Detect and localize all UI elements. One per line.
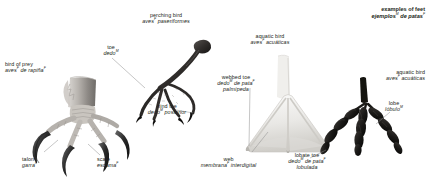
specimen-es: avesF paseriformes [116, 18, 216, 24]
callout-lobe: lobe lóbuloM [370, 100, 418, 112]
specimen-es: avesF acuáticas [230, 39, 310, 45]
callout-web: web membranaF interdigital [186, 156, 271, 168]
callout-hind-toe: hind toe dedoM posterior [128, 103, 206, 115]
callout-es: membranaF interdigital [186, 162, 271, 168]
specimen-label-aquatic-bird-webbed: aquatic bird avesF acuáticas [230, 33, 310, 45]
specimen-label-bird-of-prey: bird of prey avesF de rapiñaF [5, 61, 46, 73]
illustration-plate: examples of feet ejemplosM de patasF bir… [0, 0, 429, 187]
leader-toe [112, 58, 145, 88]
leader-webbed-toe [249, 88, 250, 146]
callout-talon: talon garraF [22, 156, 37, 168]
specimen-es: avesF acuáticas [386, 75, 425, 81]
callout-es: dedoM [88, 50, 134, 56]
webbed-foot-art [246, 55, 329, 153]
callout-es-line3: palmípeda [196, 86, 276, 92]
callout-lobate-toe: lobate toe dedoM de pataF lobulada [268, 152, 346, 171]
leader-talon [44, 140, 58, 152]
callout-es: dedoM posterior [128, 109, 206, 115]
callout-es: garraF [22, 162, 37, 168]
leader-lines [44, 58, 390, 158]
callout-es: escamaF [97, 162, 119, 168]
callout-webbed-toe: webbed toe dedoM de pataF palmípeda [196, 74, 276, 93]
plate-title-es: ejemplosM de patasF [372, 13, 425, 20]
lobate-foot-art [318, 77, 404, 156]
callout-scale: scale escamaF [97, 156, 119, 168]
callout-es-line3: lobulada [268, 164, 346, 170]
specimen-es: avesF de rapiñaF [5, 67, 46, 73]
specimen-label-aquatic-bird-lobate: aquatic bird avesF acuáticas [386, 69, 425, 81]
plate-title: examples of feet ejemplosM de patasF [372, 6, 425, 19]
specimen-label-perching-bird: perching bird avesF paseriformes [116, 12, 216, 24]
callout-toe: toe dedoM [88, 44, 134, 56]
callout-es: lóbuloM [370, 106, 418, 112]
leader-scale [88, 144, 100, 155]
